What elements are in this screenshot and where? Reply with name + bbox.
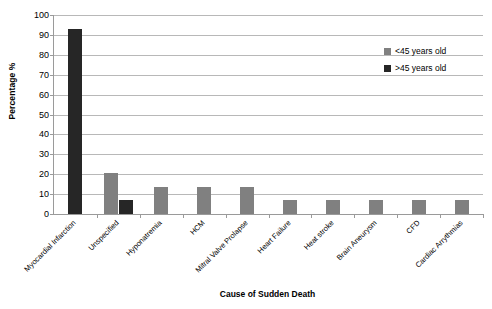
- gridline: [54, 134, 483, 135]
- y-axis-tick-label: 80: [39, 50, 49, 59]
- x-axis-tick-mark: [269, 214, 270, 218]
- y-axis-tick-label: 40: [39, 130, 49, 139]
- y-axis-tick-label: 30: [39, 150, 49, 159]
- legend-item: >45 years old: [384, 60, 492, 77]
- bar-chart: Percentage % 0102030405060708090100 <45 …: [0, 0, 492, 309]
- y-axis-tick-label: 50: [39, 110, 49, 119]
- y-axis-tick-label: 60: [39, 90, 49, 99]
- x-axis-category-label: Unspecified: [88, 219, 121, 252]
- x-axis-title: Cause of Sudden Death: [53, 289, 482, 299]
- legend-item: <45 years old: [384, 43, 492, 60]
- gridline: [54, 154, 483, 155]
- x-axis-category-label: Cardiac Arrythmias: [414, 219, 464, 269]
- x-axis-category-label: CFD: [405, 219, 421, 235]
- y-axis-tick-mark: [50, 174, 54, 175]
- bar: [197, 187, 211, 214]
- gridline: [54, 35, 483, 36]
- y-axis-tick-mark: [50, 15, 54, 16]
- x-axis-category-label: HCM: [189, 219, 206, 236]
- x-axis-tick-mark: [97, 214, 98, 218]
- gridline: [54, 15, 483, 16]
- bar: [412, 200, 426, 214]
- bar: [240, 187, 254, 214]
- gridline: [54, 95, 483, 96]
- x-axis-tick-mark: [440, 214, 441, 218]
- y-axis-tick-label: 70: [39, 70, 49, 79]
- x-axis-tick-mark: [183, 214, 184, 218]
- x-axis-category-label: Brain Aneurysm: [335, 219, 378, 262]
- y-axis-tick-mark: [50, 95, 54, 96]
- x-axis-category-label: Myocardial Infarction: [24, 219, 78, 273]
- y-axis-tick-label: 0: [44, 210, 49, 219]
- y-axis-tick-mark: [50, 75, 54, 76]
- gridline: [54, 174, 483, 175]
- y-axis-tick-mark: [50, 55, 54, 56]
- x-axis-tick-mark: [226, 214, 227, 218]
- bar: [326, 200, 340, 214]
- x-axis-category-label: Heart Failure: [256, 219, 292, 255]
- legend-item-label: >45 years old: [395, 64, 446, 73]
- y-axis-tick-mark: [50, 154, 54, 155]
- bar: [369, 200, 383, 214]
- bar: [119, 200, 133, 214]
- bar: [283, 200, 297, 214]
- y-axis-tick-mark: [50, 35, 54, 36]
- y-axis-tick-label: 10: [39, 190, 49, 199]
- y-axis-tick-mark: [50, 194, 54, 195]
- plot-area: 0102030405060708090100 <45 years old >45…: [53, 15, 483, 215]
- gridline: [54, 115, 483, 116]
- x-axis-tick-mark: [354, 214, 355, 218]
- y-axis-tick-label: 90: [39, 30, 49, 39]
- legend-swatch-icon: [384, 48, 391, 55]
- legend-item-label: <45 years old: [395, 47, 446, 56]
- legend-swatch-icon: [384, 65, 391, 72]
- bar: [154, 187, 168, 214]
- y-axis-tick-mark: [50, 115, 54, 116]
- y-axis-tick-mark: [50, 214, 54, 215]
- bar: [104, 173, 118, 214]
- x-axis-tick-mark: [397, 214, 398, 218]
- y-axis-tick-mark: [50, 134, 54, 135]
- y-axis-title: Percentage %: [7, 51, 17, 131]
- y-axis-tick-label: 100: [34, 11, 49, 20]
- x-axis-tick-mark: [311, 214, 312, 218]
- bar: [455, 200, 469, 214]
- y-axis-tick-label: 20: [39, 170, 49, 179]
- x-axis-tick-mark: [483, 214, 484, 218]
- x-axis-tick-mark: [140, 214, 141, 218]
- gridline: [54, 194, 483, 195]
- x-axis-category-label: Heat stroke: [303, 219, 335, 251]
- bar: [68, 29, 82, 214]
- x-axis-category-label: Hyponatremia: [125, 219, 163, 257]
- legend: <45 years old >45 years old: [384, 43, 492, 77]
